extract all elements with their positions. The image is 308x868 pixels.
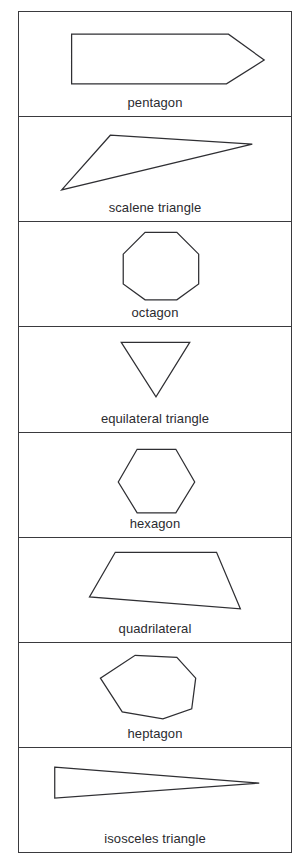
quadrilateral-shape-outline	[89, 552, 240, 609]
quadrilateral-shape	[19, 538, 291, 622]
hexagon-shape	[19, 433, 291, 517]
shape-cell: pentagon	[19, 12, 291, 117]
pentagon-shape-outline	[72, 34, 265, 84]
heptagon-shape-outline	[100, 655, 195, 719]
equilateral-triangle-shape	[19, 327, 291, 411]
shape-label: heptagon	[19, 727, 291, 747]
equilateral-triangle-shape-outline	[121, 343, 189, 398]
shape-cell: quadrilateral	[19, 538, 291, 643]
octagon-shape	[19, 222, 291, 306]
shape-label: equilateral triangle	[19, 412, 291, 432]
shape-cell: heptagon	[19, 643, 291, 748]
shape-label: pentagon	[19, 96, 291, 116]
shape-cell: octagon	[19, 222, 291, 327]
isosceles-triangle-shape-outline	[55, 767, 259, 798]
shape-label: scalene triangle	[19, 201, 291, 221]
pentagon-shape	[19, 12, 291, 96]
shape-label: octagon	[19, 306, 291, 326]
hexagon-shape-outline	[118, 449, 194, 513]
shape-label: quadrilateral	[19, 622, 291, 642]
shape-label: hexagon	[19, 517, 291, 537]
heptagon-shape	[19, 643, 291, 727]
shape-cell: isosceles triangle	[19, 748, 291, 852]
shape-cell: equilateral triangle	[19, 327, 291, 432]
shape-cell: scalene triangle	[19, 117, 291, 222]
scalene-triangle-shape-outline	[62, 135, 253, 190]
scalene-triangle-shape	[19, 117, 291, 201]
octagon-shape-outline	[123, 233, 198, 301]
shape-cell: hexagon	[19, 433, 291, 538]
shape-label: isosceles triangle	[19, 832, 291, 852]
isosceles-triangle-shape	[19, 748, 291, 832]
shape-reference-table: pentagonscalene triangleoctagonequilater…	[18, 11, 292, 853]
